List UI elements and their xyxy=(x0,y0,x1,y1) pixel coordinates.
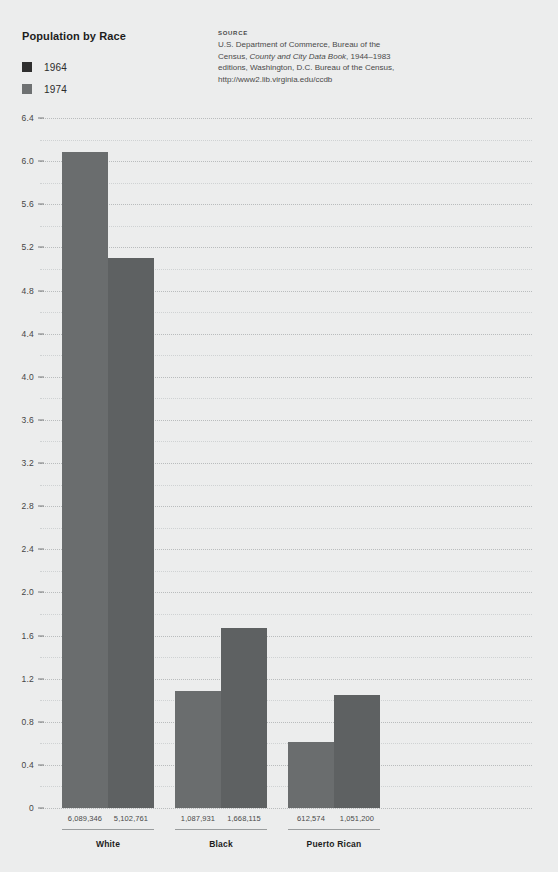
y-axis-tick xyxy=(38,161,44,162)
gridline-minor xyxy=(40,140,532,141)
y-axis-tick-label: 2.0 xyxy=(0,587,34,597)
y-axis-tick xyxy=(38,506,44,507)
category-rule xyxy=(288,829,380,830)
y-axis-tick-label: 4.8 xyxy=(0,286,34,296)
y-axis-tick xyxy=(38,333,44,334)
y-axis-tick xyxy=(38,419,44,420)
y-axis-tick-label: 6.4 xyxy=(0,113,34,123)
bar[interactable] xyxy=(175,691,221,808)
y-axis-tick-label: 5.6 xyxy=(0,199,34,209)
bar[interactable] xyxy=(334,695,380,808)
gridline-major xyxy=(40,118,532,119)
y-axis-tick-label: 1.6 xyxy=(0,631,34,641)
bar-value-label: 5,102,761 xyxy=(103,814,159,823)
y-axis-tick-label: 1.2 xyxy=(0,674,34,684)
y-axis-tick-label: 2.4 xyxy=(0,544,34,554)
y-axis-tick-label: 4.4 xyxy=(0,329,34,339)
category-rule xyxy=(175,829,267,830)
y-axis-tick-label: 0.4 xyxy=(0,760,34,770)
y-axis-tick-label: 0 xyxy=(0,803,34,813)
bar-value-label: 1,051,200 xyxy=(329,814,385,823)
category-rule xyxy=(62,829,154,830)
y-axis-tick-label: 4.0 xyxy=(0,372,34,382)
y-axis-tick xyxy=(38,721,44,722)
gridline-major xyxy=(40,161,532,162)
bar-chart-plot: 00.40.81.21.62.02.42.83.23.64.04.44.85.2… xyxy=(0,0,558,872)
y-axis-tick xyxy=(38,592,44,593)
gridline-minor xyxy=(40,183,532,184)
y-axis-tick xyxy=(38,118,44,119)
y-axis-tick-label: 6.0 xyxy=(0,156,34,166)
gridline-major xyxy=(40,247,532,248)
y-axis-tick-label: 2.8 xyxy=(0,501,34,511)
y-axis-tick xyxy=(38,549,44,550)
y-axis-tick xyxy=(38,678,44,679)
y-axis-tick xyxy=(38,635,44,636)
y-axis-tick xyxy=(38,290,44,291)
y-axis-tick-label: 0.8 xyxy=(0,717,34,727)
bar-value-label: 1,668,115 xyxy=(216,814,272,823)
y-axis-tick xyxy=(38,247,44,248)
bar[interactable] xyxy=(108,258,154,808)
bar[interactable] xyxy=(221,628,267,808)
y-axis-tick xyxy=(38,204,44,205)
category-label: Puerto Rican xyxy=(268,839,400,849)
bar[interactable] xyxy=(288,742,334,808)
bar[interactable] xyxy=(62,152,108,809)
y-axis-tick xyxy=(38,764,44,765)
y-axis-tick-label: 5.2 xyxy=(0,242,34,252)
y-axis-tick xyxy=(38,808,44,809)
gridline-major xyxy=(40,204,532,205)
y-axis-tick xyxy=(38,463,44,464)
y-axis-tick xyxy=(38,376,44,377)
axis-baseline xyxy=(40,808,532,809)
gridline-minor xyxy=(40,226,532,227)
y-axis-tick-label: 3.2 xyxy=(0,458,34,468)
y-axis-tick-label: 3.6 xyxy=(0,415,34,425)
